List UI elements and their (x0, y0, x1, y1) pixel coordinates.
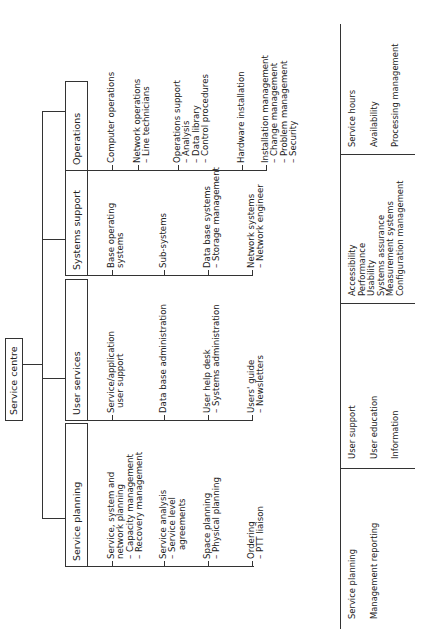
header-user-services: User services (65, 279, 88, 421)
table-cell-2: User support User education Information (348, 396, 413, 459)
trunk-line (42, 112, 43, 519)
table-cell-4: Service hours Availability Processing ma… (348, 44, 413, 148)
sp-item-2: Service analysis – Service level agreeme… (159, 490, 187, 559)
ss-item-2: Sub-systems (159, 213, 168, 268)
table-top-border (340, 24, 341, 629)
op-item-4: Hardware installation (237, 71, 246, 163)
sp-branch-1 (112, 561, 113, 567)
sp-item-4: Ordering – PTT liaison (247, 506, 266, 559)
sp-branch-2 (164, 561, 165, 567)
service-centre-box: Service centre (5, 338, 23, 421)
sp-item-3: Space planning – Physical planning (203, 477, 222, 559)
service-centre-label: Service centre (9, 347, 19, 416)
root-stem (22, 364, 42, 365)
op-item-2: Network operations – Line technicians (133, 79, 152, 163)
header-systems-support: Systems support (65, 164, 88, 276)
table-divider-3 (340, 154, 415, 155)
sp-branch-3 (208, 561, 209, 567)
sp-branch-4 (252, 561, 253, 567)
table-cell-1: Service planning Management reporting (348, 523, 391, 619)
table-cell-3: Accessibility Performance Usability Syst… (348, 180, 406, 296)
ss-item-1: Base operating systems (107, 203, 126, 268)
table-divider-1 (340, 468, 415, 469)
table-divider-2 (340, 303, 415, 304)
drop-operations (42, 111, 65, 112)
op-item-5: Installation management – Change managem… (261, 55, 299, 163)
op-item-1: Computer operations (107, 72, 116, 163)
org-chart: Service centre Service planning User ser… (0, 0, 425, 629)
ss-item-4: Network systems – Network engineer (247, 184, 266, 268)
us-item-1: Service/application user support (107, 331, 126, 413)
ss-item-3: Data base systems – Storage management (203, 167, 222, 268)
header-service-planning: Service planning (65, 423, 88, 567)
drop-user-services (42, 378, 65, 379)
drop-systems-support (42, 239, 65, 240)
us-item-3: User help desk – Systems administration (203, 304, 222, 413)
op-item-3: Operations support – Analysis – Data lib… (173, 74, 211, 163)
header-operations: Operations (65, 81, 88, 171)
us-item-2: Data base administration (159, 304, 168, 413)
drop-service-planning (42, 518, 65, 519)
sp-item-1: Service, system and network planning – C… (107, 452, 145, 559)
us-item-4: Users' guide – Newsletters (247, 355, 266, 413)
spine-operations (88, 170, 266, 171)
